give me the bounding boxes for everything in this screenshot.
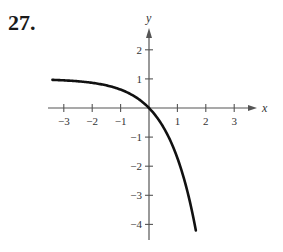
y-tick-label: −4	[130, 218, 142, 230]
x-tick-label: −1	[115, 115, 127, 127]
y-tick-label: −3	[130, 189, 142, 201]
x-axis-arrow-icon	[248, 105, 257, 111]
y-tick-label: −1	[130, 131, 142, 143]
x-tick-label: −3	[58, 115, 70, 127]
function-curve	[52, 80, 195, 231]
y-tick-label: 2	[137, 44, 143, 56]
function-graph: −3−2−1123 21−1−2−3−4 x y	[0, 0, 283, 252]
x-tick-label: 2	[203, 115, 209, 127]
y-axis-arrow-icon	[146, 28, 152, 38]
x-axis-label: x	[261, 101, 268, 115]
axes	[48, 28, 257, 240]
y-axis-label: y	[145, 11, 152, 25]
y-tick-label: −2	[130, 160, 142, 172]
x-tick-label: 3	[231, 115, 237, 127]
x-tick-label: −2	[86, 115, 98, 127]
y-tick-label: 1	[137, 73, 143, 85]
x-tick-label: 1	[175, 115, 181, 127]
